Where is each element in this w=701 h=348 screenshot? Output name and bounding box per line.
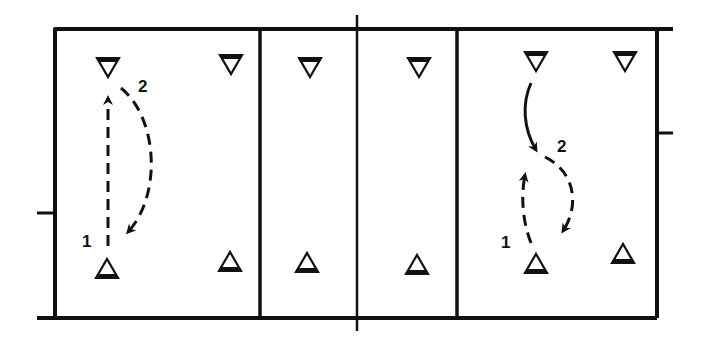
player-marker-right-back-4 xyxy=(611,244,635,264)
player-marker-right-back-3 xyxy=(524,254,548,274)
left-move-2-arrow xyxy=(121,88,151,232)
player-marker-right-front-bottom xyxy=(405,255,429,275)
player-marker-right-back-1 xyxy=(524,51,548,71)
player-marker-left-front-top xyxy=(298,57,322,77)
movement-paths xyxy=(108,83,573,246)
player-marker-left-back-2 xyxy=(219,54,243,74)
sequence-labels: 2121 xyxy=(82,77,566,252)
court-diagram: 2121 xyxy=(0,0,701,348)
players xyxy=(95,51,637,279)
right-label-2: 2 xyxy=(557,137,566,156)
player-marker-right-back-2 xyxy=(613,51,637,71)
right-move-2-arrow xyxy=(545,157,573,231)
right-label-1: 1 xyxy=(501,233,510,252)
right-move-top-arrow xyxy=(525,83,536,150)
left-label-1: 1 xyxy=(82,232,91,251)
player-marker-left-front-bottom xyxy=(295,253,319,273)
left-label-2: 2 xyxy=(138,77,147,96)
player-marker-left-back-4 xyxy=(218,252,242,272)
right-move-1-arrow xyxy=(523,175,531,243)
player-marker-left-back-1 xyxy=(96,57,120,77)
court-lines xyxy=(37,15,673,331)
player-marker-right-front-top xyxy=(407,57,431,77)
player-marker-left-back-3 xyxy=(95,259,119,279)
